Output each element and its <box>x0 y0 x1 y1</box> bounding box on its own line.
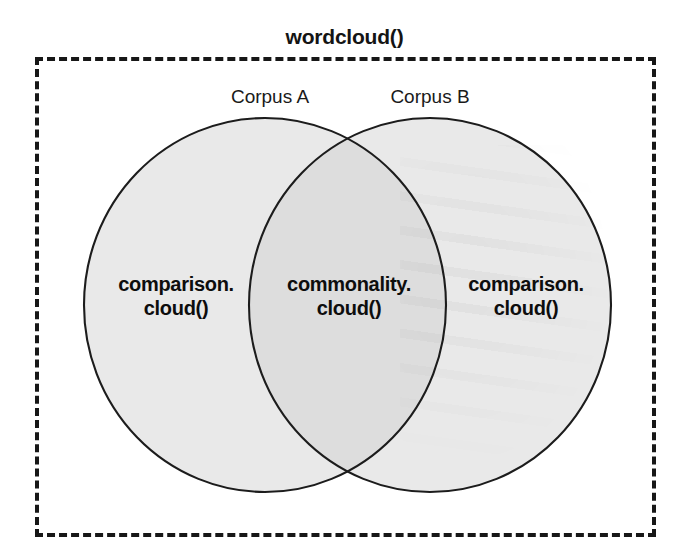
corpus-b-only-label: comparison. cloud() <box>438 272 614 321</box>
intersection-label-line1: commonality. <box>256 272 442 296</box>
corpus-a-only-label-line1: comparison. <box>88 272 264 296</box>
corpus-b-only-label-line2: cloud() <box>438 296 614 320</box>
corpus-b-only-label-line1: comparison. <box>438 272 614 296</box>
page-title: wordcloud() <box>0 25 689 49</box>
intersection-label-line2: cloud() <box>256 296 442 320</box>
wordcloud-venn-figure: wordcloud() Corpus A Corpus B comparison… <box>0 0 689 556</box>
intersection-label: commonality. cloud() <box>256 272 442 321</box>
corpus-a-only-label-line2: cloud() <box>88 296 264 320</box>
corpus-b-label: Corpus B <box>360 86 500 108</box>
corpus-a-only-label: comparison. cloud() <box>88 272 264 321</box>
corpus-a-label: Corpus A <box>200 86 340 108</box>
